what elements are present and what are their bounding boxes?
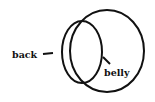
- back-pointer-line: [43, 53, 53, 54]
- label-back: back: [12, 50, 37, 60]
- label-belly: belly: [104, 68, 129, 78]
- belly-pointer-line: [103, 57, 110, 64]
- outer-circle: [70, 10, 144, 92]
- inner-oval: [62, 21, 102, 83]
- diagram-canvas: back belly: [0, 0, 155, 102]
